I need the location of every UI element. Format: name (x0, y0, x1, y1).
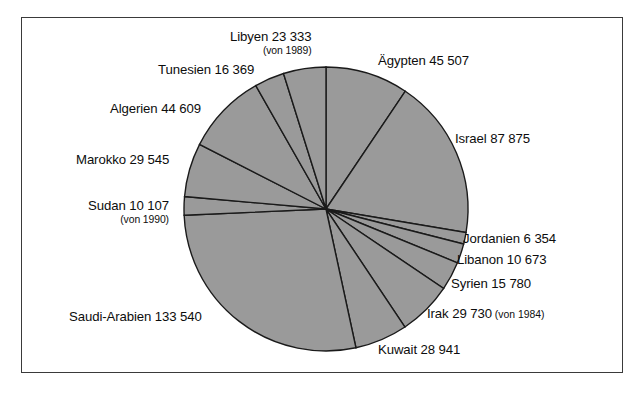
pie-label-note-libyen: (von 1989) (230, 44, 312, 58)
pie-label-text-israel: Israel 87 875 (455, 131, 530, 146)
pie-label-irak: Irak 29 730 (von 1984) (427, 306, 544, 322)
pie-label-tunesien: Tunesien 16 369 (158, 62, 254, 77)
pie-label-text-irak: Irak 29 730 (427, 306, 492, 321)
pie-label-libanon: Libanon 10 673 (457, 252, 547, 267)
pie-label-sudan: Sudan 10 107(von 1990) (88, 199, 169, 227)
pie-label-text-kuwait: Kuwait 28 941 (378, 342, 460, 357)
pie-labels-layer: Ägypten 45 507Israel 87 875Jordanien 6 3… (0, 0, 642, 393)
pie-label-libyen: Libyen 23 333(von 1989) (230, 30, 312, 58)
pie-chart-figure: Ägypten 45 507Israel 87 875Jordanien 6 3… (0, 0, 642, 393)
pie-label-note-sudan: (von 1990) (88, 213, 169, 227)
pie-label-text-tunesien: Tunesien 16 369 (158, 62, 254, 77)
pie-label-saudi-arabien: Saudi-Arabien 133 540 (69, 309, 202, 324)
pie-label-text-libyen: Libyen 23 333 (230, 29, 312, 44)
pie-label-marokko: Marokko 29 545 (76, 152, 169, 167)
pie-label-jordanien: Jordanien 6 354 (463, 231, 556, 246)
pie-label-text-sudan: Sudan 10 107 (88, 198, 169, 213)
pie-label-note-irak: (von 1984) (492, 309, 545, 320)
pie-label-kuwait: Kuwait 28 941 (378, 342, 460, 357)
pie-label-syrien: Syrien 15 780 (451, 276, 531, 291)
pie-label-text-saudi-arabien: Saudi-Arabien 133 540 (69, 309, 202, 324)
pie-label-algerien: Algerien 44 609 (110, 101, 201, 116)
pie-label-text-libanon: Libanon 10 673 (457, 252, 547, 267)
pie-label-israel: Israel 87 875 (455, 131, 530, 146)
pie-label-aegypten: Ägypten 45 507 (378, 53, 469, 68)
pie-label-text-algerien: Algerien 44 609 (110, 101, 201, 116)
pie-label-text-marokko: Marokko 29 545 (76, 152, 169, 167)
pie-label-text-jordanien: Jordanien 6 354 (463, 231, 556, 246)
pie-label-text-aegypten: Ägypten 45 507 (378, 53, 469, 68)
pie-label-text-syrien: Syrien 15 780 (451, 276, 531, 291)
